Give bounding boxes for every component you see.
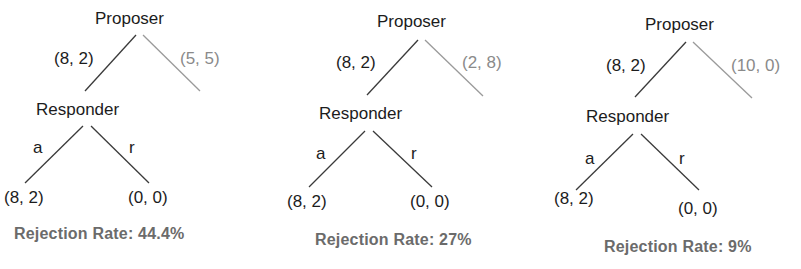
offer-main-label: (8, 2) xyxy=(336,54,376,71)
rejection-rate-label: Rejection Rate: 44.4% xyxy=(14,226,184,242)
reject-payoff-label: (0, 0) xyxy=(128,189,168,206)
game-tree-3: Proposer (8, 2) (10, 0) Responder a r (8… xyxy=(540,0,801,269)
proposer-label: Proposer xyxy=(95,10,164,27)
offer-alt-label: (10, 0) xyxy=(731,57,780,74)
reject-label: r xyxy=(129,139,135,156)
accept-payoff-label: (8, 2) xyxy=(287,193,327,210)
offer-main-label: (8, 2) xyxy=(54,50,94,67)
proposer-label: Proposer xyxy=(377,13,446,30)
offer-alt-label: (2, 8) xyxy=(462,54,502,71)
proposer-label: Proposer xyxy=(645,16,714,33)
responder-label: Responder xyxy=(586,108,669,125)
reject-label: r xyxy=(411,145,417,162)
reject-label: r xyxy=(679,150,685,167)
offer-alt-label: (5, 5) xyxy=(180,50,220,67)
accept-label: a xyxy=(585,150,594,167)
game-tree-2: Proposer (8, 2) (2, 8) Responder a r (8,… xyxy=(270,0,540,269)
accept-label: a xyxy=(316,145,325,162)
responder-label: Responder xyxy=(319,105,402,122)
reject-payoff-label: (0, 0) xyxy=(410,193,450,210)
responder-label: Responder xyxy=(36,101,119,118)
accept-payoff-label: (8, 2) xyxy=(4,189,44,206)
tree-2-edges xyxy=(270,0,540,269)
game-tree-1: Proposer (8, 2) (5, 5) Responder a r (8,… xyxy=(0,0,270,269)
rejection-rate-label: Rejection Rate: 27% xyxy=(315,232,472,248)
accept-payoff-label: (8, 2) xyxy=(554,190,594,207)
reject-payoff-label: (0, 0) xyxy=(678,200,718,217)
offer-main-label: (8, 2) xyxy=(606,57,646,74)
rejection-rate-label: Rejection Rate: 9% xyxy=(604,239,752,255)
accept-label: a xyxy=(33,139,42,156)
tree-3-edges xyxy=(540,0,801,269)
